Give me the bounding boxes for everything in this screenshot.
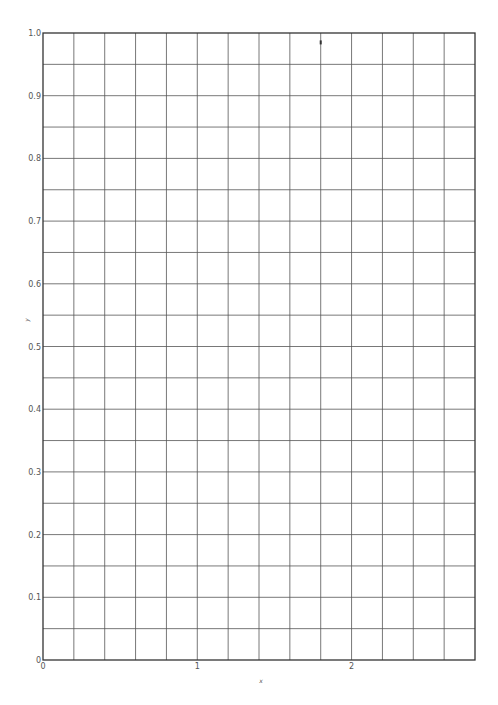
x-tick-label: 0	[40, 662, 45, 671]
chart: 00.10.20.30.40.50.60.70.80.91.0 012 x y	[0, 0, 498, 705]
y-tick-label: 0.2	[28, 531, 41, 540]
y-tick-label: 0.4	[28, 405, 41, 414]
y-tick-label: 1.0	[28, 29, 41, 38]
data-point	[320, 40, 322, 44]
y-tick-label: 0.8	[28, 154, 41, 163]
data-points	[320, 40, 322, 44]
y-tick-label: 0.3	[28, 468, 41, 477]
x-axis-label: x	[258, 677, 263, 684]
y-tick-label: 0.1	[28, 593, 41, 602]
y-tick-label: 0.5	[28, 343, 41, 352]
y-tick-label: 0.7	[28, 217, 41, 226]
y-tick-label: 0.6	[28, 280, 41, 289]
x-tick-label: 1	[195, 662, 200, 671]
y-axis-ticks: 00.10.20.30.40.50.60.70.80.91.0	[28, 29, 41, 665]
y-axis-label: y	[23, 318, 31, 323]
x-axis-ticks: 012	[40, 662, 354, 671]
y-tick-label: 0.9	[28, 92, 41, 101]
grid-lines	[43, 33, 475, 660]
x-tick-label: 2	[349, 662, 354, 671]
